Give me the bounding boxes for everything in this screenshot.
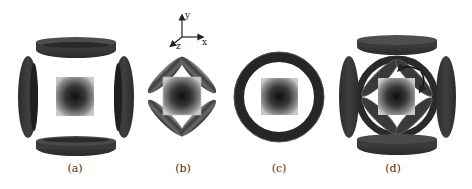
coil-right [436, 56, 456, 138]
coil-left [339, 56, 359, 138]
coil-right [114, 56, 134, 138]
panel-c [234, 52, 324, 142]
panel-label-a: (a) [55, 162, 95, 175]
field-map-a [56, 77, 94, 116]
coil-bottom [357, 134, 437, 155]
panel-label-d: (d) [373, 162, 413, 175]
coordinate-axes: y x z [172, 10, 207, 51]
panel-label-c: (c) [259, 162, 299, 175]
coil-top [357, 35, 437, 55]
panel-d [339, 35, 456, 155]
panel-label-b: (b) [163, 162, 203, 175]
panel-b: y x z [144, 10, 220, 140]
field-map-d [378, 78, 415, 115]
axis-y-label: y [184, 10, 191, 20]
coil-top [36, 37, 116, 58]
coil-bottom [36, 136, 116, 156]
axis-z-label: z [176, 41, 181, 51]
field-map-c [261, 78, 298, 115]
field-map-b [163, 77, 201, 115]
axis-x-label: x [202, 37, 207, 47]
panel-a [18, 37, 134, 156]
figure-canvas: y x z [0, 0, 472, 189]
coil-left [18, 56, 38, 138]
